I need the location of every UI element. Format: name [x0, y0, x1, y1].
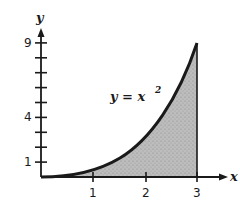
x-tick-label-3: 3 — [193, 186, 201, 200]
curve-label: y = x — [109, 89, 145, 104]
curve-label-exponent: 2 — [154, 85, 161, 95]
x-axis-arrow-icon — [219, 174, 228, 181]
x-tick-label-1: 1 — [89, 186, 97, 200]
x-axis-label: x — [229, 169, 238, 184]
y-axis-label: y — [35, 10, 45, 25]
y-tick-label-9: 9 — [24, 36, 32, 50]
y-tick-label-1: 1 — [24, 155, 32, 169]
y-tick-label-4: 4 — [24, 110, 32, 124]
y-axis-arrow-icon — [38, 28, 45, 37]
x-tick-label-2: 2 — [142, 186, 150, 200]
diagram-canvas: y x 9 4 1 1 2 3 y = x 2 — [0, 0, 240, 210]
